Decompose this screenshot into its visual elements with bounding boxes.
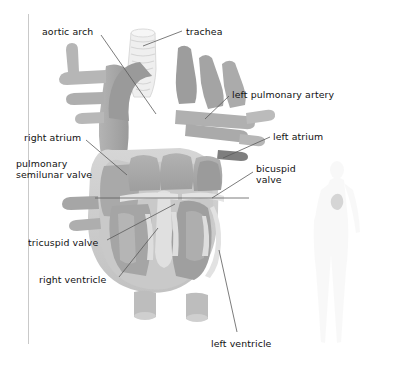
- descending-vessels: [134, 291, 208, 322]
- label-pulmonary-semilunar-valve: pulmonary semilunar valve: [16, 158, 136, 181]
- left-atrium-chamber: [197, 160, 221, 191]
- label-left-atrium: left atrium: [273, 131, 323, 142]
- label-trachea: trachea: [186, 26, 223, 37]
- label-right-atrium: right atrium: [24, 132, 81, 143]
- label-pulmonary-semilunar-valve-line1: pulmonary: [16, 158, 67, 169]
- label-pulmonary-semilunar-valve-line2: semilunar valve: [16, 169, 92, 180]
- heart-diagram-figure: [0, 0, 395, 367]
- great-vessels-right: [175, 46, 275, 161]
- label-bicuspid-valve: bicuspid valve: [256, 163, 326, 186]
- body-silhouette-icon: [314, 161, 360, 343]
- label-tricuspid-valve: tricuspid valve: [28, 237, 98, 248]
- page-canvas: BLOOD VESSELS, AND HEART: [0, 0, 395, 367]
- label-aortic-arch: aortic arch: [42, 26, 93, 37]
- label-bicuspid-valve-line1: bicuspid: [256, 163, 296, 174]
- label-right-ventricle: right ventricle: [39, 274, 106, 285]
- label-bicuspid-valve-line2: valve: [256, 174, 282, 185]
- label-left-pulmonary-artery: left pulmonary artery: [232, 89, 334, 100]
- leader-left-ventricle: [219, 250, 237, 332]
- label-left-ventricle: left ventricle: [211, 338, 271, 349]
